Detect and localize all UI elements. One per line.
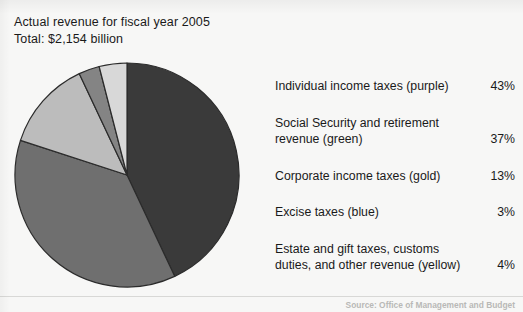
legend-row: Corporate income taxes (gold)13% (275, 168, 515, 185)
legend-item-label: Excise taxes (blue) (275, 204, 379, 221)
pie-chart (14, 61, 240, 289)
legend-row: Excise taxes (blue)3% (275, 204, 515, 221)
heading-line-title: Actual revenue for fiscal year 2005 (14, 14, 210, 31)
legend-item-label: Social Security and retirement revenue (… (275, 115, 439, 148)
pie-slice-group (15, 63, 239, 287)
legend-item-percent: 37% (484, 131, 515, 148)
legend-item-percent: 4% (491, 257, 515, 274)
legend: Individual income taxes (purple)43%Socia… (275, 78, 515, 274)
legend-row: Social Security and retirement revenue (… (275, 115, 515, 148)
pie-chart-svg (14, 61, 240, 289)
source-note: Source: Office of Management and Budget (346, 300, 515, 310)
legend-item-percent: 43% (484, 78, 515, 95)
legend-item-label: Corporate income taxes (gold) (275, 168, 440, 185)
legend-row: Estate and gift taxes, customs duties, a… (275, 241, 515, 274)
revenue-pie-chart-figure: Actual revenue for fiscal year 2005 Tota… (0, 0, 523, 312)
legend-item-percent: 3% (491, 204, 515, 221)
legend-row: Individual income taxes (purple)43% (275, 78, 515, 95)
legend-item-percent: 13% (484, 168, 515, 185)
heading-line-total: Total: $2,154 billion (14, 31, 210, 48)
legend-item-label: Estate and gift taxes, customs duties, a… (275, 241, 460, 274)
legend-item-label: Individual income taxes (purple) (275, 78, 449, 95)
footer-divider (0, 296, 523, 297)
figure-heading: Actual revenue for fiscal year 2005 Tota… (14, 14, 210, 48)
